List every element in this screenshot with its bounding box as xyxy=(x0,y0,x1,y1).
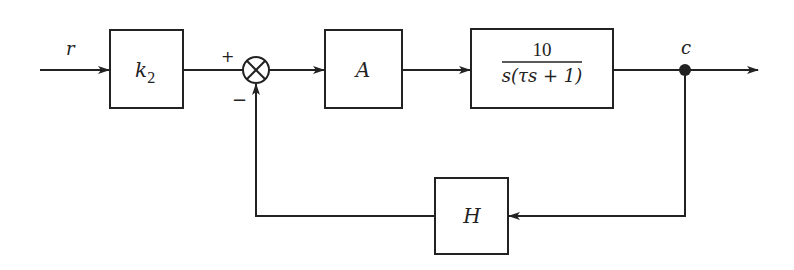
feedback-takeoff-line xyxy=(509,70,685,216)
output-label-c: c xyxy=(681,37,691,58)
k2-label: k2 xyxy=(135,58,155,86)
feedback-return-line xyxy=(256,84,435,216)
block-diagram: r c k2 A 10 s(τs + 1) H + − xyxy=(0,0,794,270)
minus-sign: − xyxy=(232,89,247,110)
A-label: A xyxy=(354,58,370,82)
input-label-r: r xyxy=(66,38,76,59)
output-takeoff-node xyxy=(679,64,691,76)
H-label: H xyxy=(462,204,481,228)
summing-junction xyxy=(243,57,269,83)
plant-numerator: 10 xyxy=(533,39,552,60)
plus-sign: + xyxy=(221,47,234,66)
plant-denominator: s(τs + 1) xyxy=(502,65,582,86)
